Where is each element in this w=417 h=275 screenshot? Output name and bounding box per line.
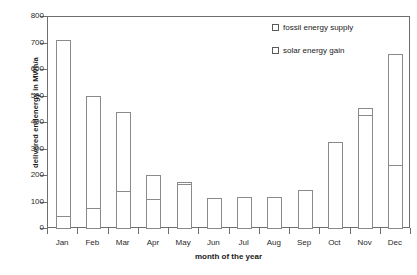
bar-segment-divider-nov (358, 115, 373, 116)
y-axis-label: 600 (4, 65, 44, 73)
y-axis-label: 200 (4, 171, 44, 179)
bar-apr (146, 175, 161, 229)
x-axis-tick (259, 228, 260, 234)
x-axis-label-nov: Nov (350, 238, 380, 247)
x-axis-label-jan: Jan (47, 238, 77, 247)
chart-container: delivered endenergy in MWh/a 80070060050… (0, 0, 417, 275)
x-axis-tick (350, 228, 351, 234)
x-axis-tick (410, 228, 411, 234)
bar-jan (56, 40, 71, 229)
bar-mar (116, 112, 131, 229)
legend-swatch-icon (272, 24, 279, 31)
bar-jul (237, 197, 252, 229)
x-axis-label-jul: Jul (229, 238, 259, 247)
y-axis-label: 0 (4, 224, 44, 232)
bar-oct (328, 142, 343, 229)
legend-swatch-icon (272, 47, 279, 54)
x-axis-label-apr: Apr (138, 238, 168, 247)
x-axis-tick (77, 228, 78, 234)
x-axis-tick (289, 228, 290, 234)
x-axis-label-oct: Oct (319, 238, 349, 247)
bar-segment-divider-apr (146, 199, 161, 200)
y-axis-label: 100 (4, 198, 44, 206)
x-axis-tick (108, 228, 109, 234)
bar-segment-divider-may (177, 184, 192, 185)
bar-dec (388, 54, 403, 229)
y-axis-label: 500 (4, 92, 44, 100)
x-axis-label-aug: Aug (259, 238, 289, 247)
x-axis-title: month of the year (47, 252, 410, 261)
bar-nov (358, 108, 373, 229)
x-axis-tick (380, 228, 381, 234)
x-axis-label-jun: Jun (198, 238, 228, 247)
x-axis-label-feb: Feb (77, 238, 107, 247)
bar-sep (298, 190, 313, 229)
legend-item-fossil: fossil energy supply (272, 20, 404, 34)
legend-label: fossil energy supply (283, 23, 353, 32)
legend-item-solar: solar energy gain (272, 43, 404, 57)
x-axis-tick (138, 228, 139, 234)
legend-label: solar energy gain (283, 46, 344, 55)
y-axis-label: 800 (4, 12, 44, 20)
chart-legend: fossil energy supply solar energy gain (272, 20, 404, 66)
x-axis-tick (319, 228, 320, 234)
x-axis-tick (47, 228, 48, 234)
bar-segment-divider-mar (116, 191, 131, 192)
x-axis-label-sep: Sep (289, 238, 319, 247)
x-axis-tick (229, 228, 230, 234)
x-axis-tick (198, 228, 199, 234)
x-axis-label-mar: Mar (108, 238, 138, 247)
bar-jun (207, 198, 222, 229)
bar-may (177, 182, 192, 229)
bar-segment-divider-jan (56, 216, 71, 217)
bar-segment-divider-feb (86, 208, 101, 209)
x-axis-label-may: May (168, 238, 198, 247)
x-axis-tick (168, 228, 169, 234)
bar-aug (267, 197, 282, 229)
y-axis-label: 400 (4, 118, 44, 126)
x-axis-label-dec: Dec (380, 238, 410, 247)
bar-segment-divider-dec (388, 165, 403, 166)
y-axis-label: 700 (4, 39, 44, 47)
y-axis-label: 300 (4, 145, 44, 153)
